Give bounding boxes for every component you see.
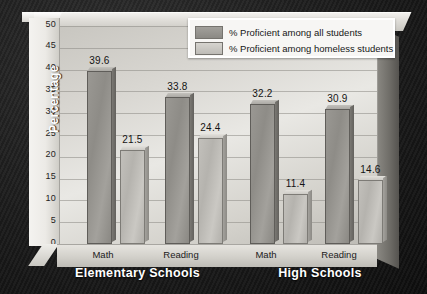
y-tick-50: 50 <box>46 20 56 29</box>
bar-side-face <box>145 146 149 242</box>
bar-value-label-2: 33.8 <box>156 81 200 92</box>
x-label-2: Math <box>231 249 301 260</box>
chart-legend: % Proficient among all students % Profic… <box>188 18 395 58</box>
bar-value-label-6: 30.9 <box>316 93 360 104</box>
legend-label-homeless-students: % Proficient among homeless students <box>229 43 393 54</box>
floor-left-edge <box>28 244 59 266</box>
bar-front-face <box>120 150 145 244</box>
bar-side-face <box>383 176 387 242</box>
x-label-0: Math <box>68 249 138 260</box>
legend-item-0: % Proficient among all students <box>195 25 388 40</box>
bar-1 <box>120 150 145 244</box>
bar-side-face <box>275 99 279 242</box>
group-title-elementary-schools: Elementary Schools <box>30 266 245 280</box>
bar-value-label-5: 11.4 <box>274 178 318 189</box>
bar-5 <box>283 194 308 244</box>
bar-front-face <box>358 180 383 244</box>
bar-0 <box>87 71 112 244</box>
y-axis-title: Percentage <box>47 39 61 159</box>
bar-front-face <box>165 97 190 244</box>
bar-value-label-7: 14.6 <box>349 164 393 175</box>
bar-value-label-1: 21.5 <box>111 134 155 145</box>
bar-front-face <box>87 71 112 244</box>
x-label-3: Reading <box>304 249 374 260</box>
plot-area: 39.621.533.824.432.211.430.914.6 <box>57 26 378 244</box>
bar-value-label-0: 39.6 <box>78 55 122 66</box>
y-tick-15: 15 <box>46 172 56 181</box>
bar-4 <box>250 104 275 244</box>
bar-2 <box>165 97 190 244</box>
y-tick-10: 10 <box>46 194 56 203</box>
y-tick-5: 5 <box>51 216 56 225</box>
legend-swatch-all-students <box>195 26 223 39</box>
group-title-high-schools: High Schools <box>240 266 400 280</box>
bar-value-label-4: 32.2 <box>241 88 285 99</box>
bar-3 <box>198 138 223 244</box>
bar-6 <box>325 109 350 244</box>
bar-7 <box>358 180 383 244</box>
bar-front-face <box>283 194 308 244</box>
legend-item-1: % Proficient among homeless students <box>195 41 388 56</box>
bar-front-face <box>198 138 223 244</box>
x-label-1: Reading <box>146 249 216 260</box>
bar-front-face <box>325 109 350 244</box>
bar-front-face <box>250 104 275 244</box>
legend-label-all-students: % Proficient among all students <box>229 27 362 38</box>
chart-image-frame: 39.621.533.824.432.211.430.914.6 5045403… <box>0 0 427 294</box>
bar-side-face <box>223 133 227 242</box>
bar-value-label-3: 24.4 <box>189 122 233 133</box>
legend-swatch-homeless-students <box>195 42 223 55</box>
bar-side-face <box>308 190 312 242</box>
chart-3d-body: 39.621.533.824.432.211.430.914.6 5045403… <box>15 12 411 270</box>
bar-side-face <box>112 67 116 242</box>
bar-side-face <box>190 92 194 242</box>
